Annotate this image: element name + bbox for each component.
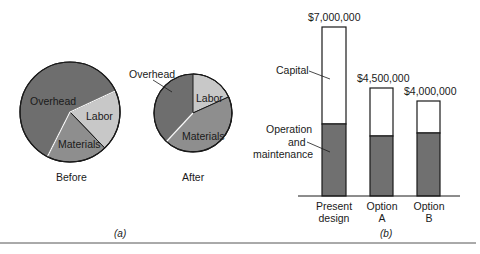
before-materials-label: Materials (58, 138, 101, 150)
cat-optionB-line2: B (425, 212, 432, 224)
cat-optionA-line1: Option (367, 200, 398, 212)
bar-present-om (322, 124, 346, 196)
bar-chart: $7,000,000 $4,500,000 $4,000,000 Capital… (253, 11, 460, 224)
cat-present-line1: Present (316, 200, 352, 212)
bar-optionB-om (417, 133, 440, 196)
before-title: Before (56, 171, 87, 183)
legend-om-line2: and (288, 136, 306, 148)
before-labor-label: Labor (86, 110, 113, 122)
figure: Overhead Labor Materials Before Overhead… (0, 0, 480, 254)
after-overhead-label: Overhead (129, 68, 175, 80)
bar-present-capital (322, 27, 346, 124)
bar-optionB-capital (417, 101, 440, 133)
cat-present-line2: design (319, 212, 350, 224)
cat-optionA-line2: A (378, 212, 385, 224)
bar-optionA-om (370, 136, 393, 196)
after-title: After (182, 171, 205, 183)
bar-optionA-total: $4,500,000 (357, 72, 410, 84)
bar-present-total: $7,000,000 (308, 11, 361, 23)
panel-a-caption: (a) (114, 228, 126, 239)
panel-b-caption: (b) (380, 228, 392, 239)
after-materials-label: Materials (182, 130, 225, 142)
legend-om-line3: maintenance (253, 148, 313, 160)
pie-after: Overhead Labor Materials After (129, 68, 232, 183)
after-labor-label: Labor (196, 92, 223, 104)
cat-optionB-line1: Option (414, 200, 445, 212)
legend-capital: Capital (276, 64, 309, 76)
before-overhead-label: Overhead (30, 95, 76, 107)
bar-optionB-total: $4,000,000 (404, 85, 457, 97)
legend-om-line1: Operation (266, 123, 312, 135)
bar-optionA-capital (370, 88, 393, 136)
pie-before: Overhead Labor Materials Before (20, 62, 120, 183)
